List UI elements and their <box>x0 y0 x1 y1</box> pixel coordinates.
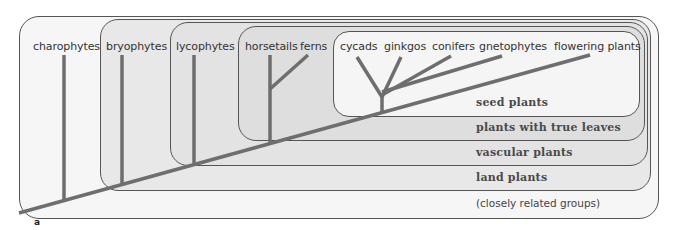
branch-ferns <box>270 55 308 89</box>
label-horsetails: horsetails <box>245 40 298 53</box>
label-charophytes: charophytes <box>33 40 100 53</box>
label-seed-plants: seed plants <box>476 96 548 109</box>
panel-label: a <box>34 217 40 227</box>
label-land-plants: land plants <box>476 171 547 184</box>
label-closely-related-groups: (closely related groups) <box>476 197 600 209</box>
label-vascular-plants: vascular plants <box>476 146 573 159</box>
label-plants-with-true-leaves: plants with true leaves <box>476 121 621 134</box>
phylogenetic-tree <box>0 0 680 230</box>
tree-trunk <box>19 55 590 213</box>
label-gnetophytes: gnetophytes <box>479 40 547 53</box>
branch-cycads <box>357 57 382 97</box>
label-bryophytes: bryophytes <box>106 40 167 53</box>
label-lycophytes: lycophytes <box>176 40 235 53</box>
label-cycads: cycads <box>340 40 377 53</box>
phylogeny-diagram: charophytes bryophytes lycophytes horset… <box>0 0 680 230</box>
label-conifers: conifers <box>432 40 475 53</box>
label-flowering-plants: flowering plants <box>554 40 641 53</box>
label-ginkgos: ginkgos <box>384 40 426 53</box>
label-ferns: ferns <box>300 40 327 53</box>
